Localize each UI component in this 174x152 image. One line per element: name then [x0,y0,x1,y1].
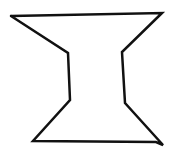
hourglass-outline [11,13,163,145]
drawing-canvas: Hand-drawn hourglass / spool shape [0,0,174,152]
hourglass-drawing [0,0,174,152]
